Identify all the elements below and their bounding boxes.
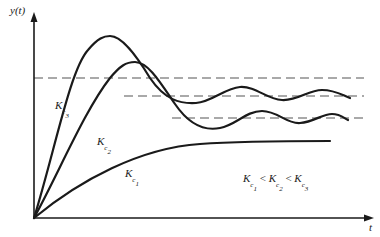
curve-kc3 — [34, 36, 350, 218]
y-axis-label: y(t) — [10, 4, 25, 16]
plot-canvas — [0, 0, 380, 237]
step-response-diagram: y(t) t Kc3 Kc2 Kc1 Kc1 < Kc2 < Kc3 — [0, 0, 380, 237]
gain-relation: Kc1 < Kc2 < Kc3 — [243, 168, 308, 191]
curve-label-kc2: Kc2 — [97, 131, 111, 154]
y-axis-arrow-icon — [31, 12, 38, 22]
curve-label-kc1: Kc1 — [125, 163, 139, 186]
x-axis-label: t — [369, 221, 372, 233]
curve-label-kc3: Kc3 — [55, 95, 69, 118]
